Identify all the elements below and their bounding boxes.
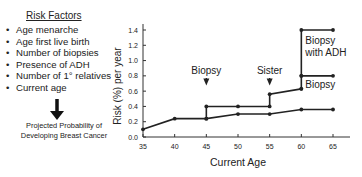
y-tick-label: 1.0	[128, 57, 138, 64]
x-tick-label: 45	[202, 143, 210, 150]
y-tick-label: 1.4	[128, 27, 138, 34]
y-tick-label: 0.8	[128, 72, 138, 79]
data-point	[268, 92, 272, 96]
data-point	[331, 28, 335, 32]
data-point	[331, 74, 335, 78]
y-tick-label: 0.0	[128, 134, 138, 141]
arrow-head	[267, 79, 273, 86]
data-point	[268, 105, 272, 109]
down-arrow-icon	[50, 99, 64, 120]
data-point	[141, 127, 145, 131]
arrow-head	[203, 79, 209, 86]
data-point	[204, 117, 208, 121]
y-tick-label: 1.2	[128, 42, 138, 49]
data-point	[236, 105, 240, 109]
data-point	[299, 74, 303, 78]
data-point	[331, 108, 335, 112]
risk-chart: 354045505560650.00.20.40.60.81.01.21.4 B…	[0, 0, 362, 177]
annotation-label: Sister	[257, 65, 283, 76]
x-axis-label: Current Age	[210, 156, 266, 168]
annotation-label: Biopsy	[191, 65, 221, 76]
data-point	[268, 112, 272, 116]
data-point	[173, 117, 177, 121]
annotation-label: Biopsy	[305, 35, 335, 46]
y-tick-label: 0.4	[128, 103, 138, 110]
x-tick-label: 35	[139, 143, 147, 150]
y-tick-label: 0.6	[128, 88, 138, 95]
data-point	[299, 87, 303, 91]
y-axis-label: Risk (%) per year	[112, 47, 123, 125]
x-tick-label: 40	[171, 143, 179, 150]
data-point	[236, 112, 240, 116]
x-tick-label: 55	[266, 143, 274, 150]
annotation-label: with ADH	[304, 47, 346, 58]
data-point	[299, 28, 303, 32]
data-point	[204, 105, 208, 109]
data-point	[299, 108, 303, 112]
x-tick-label: 50	[234, 143, 242, 150]
x-tick-label: 65	[329, 143, 337, 150]
annotation-label: Biopsy	[305, 79, 335, 90]
y-tick-label: 0.2	[128, 118, 138, 125]
x-tick-label: 60	[297, 143, 305, 150]
